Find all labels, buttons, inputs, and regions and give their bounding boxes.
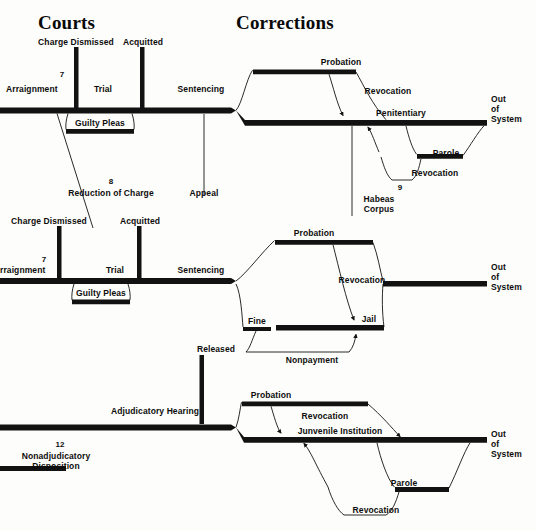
page-title-courts: Courts [38, 12, 95, 34]
label-nonadjudicatory-number: 12 [55, 440, 64, 449]
label-habeas-corpus: Habeas Corpus [364, 194, 395, 214]
label-parole-juvenile: Parole [391, 478, 418, 488]
label-revocation-parole-juvenile: Revocation [353, 505, 400, 515]
label-sentencing-misdemeanor: Sentencing [178, 265, 225, 275]
label-charge-dismissed-misdemeanor: Charge Dismissed [11, 216, 87, 226]
label-parole-felony: Parole [433, 148, 460, 158]
label-acquitted-misdemeanor: Acquitted [120, 216, 160, 226]
row-juvenile-paths [0, 355, 487, 492]
label-guilty-pleas-misdemeanor: Guilty Pleas [76, 288, 126, 298]
label-acquitted-felony: Acquitted [123, 37, 163, 47]
label-out-of-system-misdemeanor: Out of System [491, 262, 522, 292]
row-felony-paths [0, 47, 487, 159]
row-felony-thin-lines [57, 70, 484, 228]
label-adjudicatory-hearing: Adjudicatory Hearing [111, 406, 199, 416]
row-juvenile-thin-lines [236, 402, 470, 515]
label-jail: Jail [362, 314, 377, 324]
label-sentencing-felony: Sentencing [178, 84, 225, 94]
label-arraignment-felony: Arraignment [6, 84, 58, 94]
label-probation-juvenile: Probation [251, 390, 292, 400]
label-arraignment-number-felony: 7 [60, 70, 65, 79]
label-revocation-parole-felony: Revocation [412, 168, 459, 178]
row-misdemeanor-paths [0, 226, 487, 331]
label-nonadjudicatory-disposition: Nonadjudicatory Disposition [22, 451, 91, 471]
label-revocation-misdemeanor: Revocation [339, 275, 386, 285]
label-fine: Fine [248, 316, 266, 326]
label-arraignment-number-misdemeanor: 7 [42, 255, 47, 264]
label-probation-misdemeanor: Probation [294, 228, 335, 238]
label-guilty-pleas-felony: Guilty Pleas [75, 118, 125, 128]
label-habeas-number: 9 [398, 183, 403, 192]
label-released: Released [197, 344, 235, 354]
label-charge-dismissed-felony: Charge Dismissed [38, 37, 114, 47]
label-out-of-system-felony: Out of System [491, 94, 522, 124]
label-revocation-probation-juvenile: Revocation [302, 411, 349, 421]
label-probation-felony: Probation [321, 57, 362, 67]
label-nonpayment: Nonpayment [286, 355, 338, 365]
label-trial-felony: Trial [94, 84, 112, 94]
label-arraignment-misdemeanor: rraignment [0, 265, 45, 275]
label-appeal: Appeal [190, 188, 219, 198]
label-trial-misdemeanor: Trial [106, 265, 124, 275]
label-reduction-number: 8 [109, 177, 114, 186]
page-title-corrections: Corrections [236, 12, 334, 34]
flowchart-canvas: Courts Corrections Charge Dismissed Acqu… [0, 0, 536, 531]
label-juvenile-institution: Junvenile Institution [298, 426, 383, 436]
label-penitentiary: Penitentiary [376, 108, 426, 118]
label-revocation-probation-felony: Revocation [365, 86, 412, 96]
label-reduction-of-charge: Reduction of Charge [68, 188, 154, 198]
label-out-of-system-juvenile: Out of System [491, 429, 522, 459]
